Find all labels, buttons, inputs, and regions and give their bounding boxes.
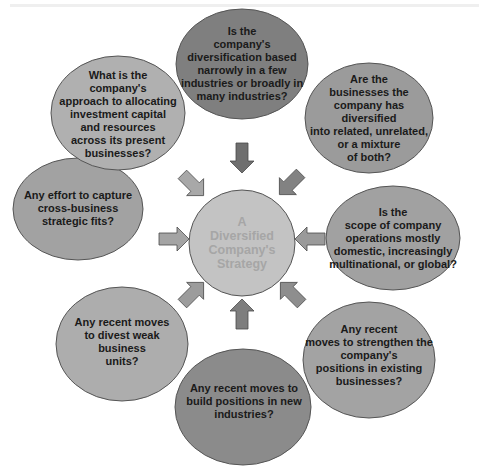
bubble-top-right — [305, 63, 433, 173]
bubble-top — [176, 9, 308, 119]
bubble-top-left — [51, 56, 185, 170]
arrow-right-icon — [159, 227, 189, 251]
arrow-up-icon — [230, 299, 254, 329]
bubble-left — [13, 158, 143, 260]
arrow-down-icon — [230, 143, 254, 173]
arrow-down-left-icon — [271, 165, 309, 203]
arrow-left-icon — [295, 227, 325, 251]
arrow-down-right-icon — [174, 166, 212, 204]
center-label: A Diversified Company's Strategy — [190, 200, 294, 286]
bubble-bottom — [175, 349, 311, 465]
bubble-bottom-right — [303, 302, 435, 418]
bubble-bottom-left — [56, 287, 188, 401]
bubble-right — [326, 186, 460, 290]
